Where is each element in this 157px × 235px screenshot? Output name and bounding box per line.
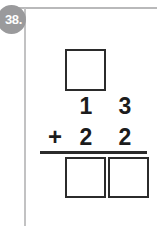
- addend-top-tens-digit: 1: [73, 95, 99, 118]
- carry-input-box[interactable]: [65, 49, 106, 91]
- answer-input-box-tens[interactable]: [65, 157, 106, 198]
- left-divider-rule: [24, 8, 26, 226]
- addend-bottom-ones-digit: 2: [112, 126, 138, 149]
- sum-rule-line: [40, 151, 147, 154]
- addend-bottom-tens-digit: 2: [73, 126, 99, 149]
- top-divider-rule: [14, 7, 157, 9]
- addend-top-ones-digit: 3: [112, 95, 138, 118]
- plus-operator-icon: +: [43, 125, 67, 149]
- worksheet-problem-card: 38. 1 3 + 2 2: [0, 0, 157, 235]
- answer-input-box-ones[interactable]: [108, 157, 149, 198]
- problem-number-badge: 38.: [0, 5, 26, 34]
